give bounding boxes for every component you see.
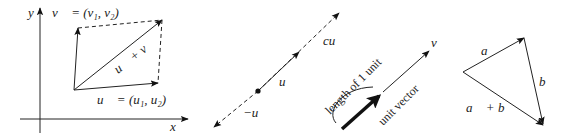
label-neg-u: −u⃗	[243, 105, 268, 120]
label-v: v⃗	[431, 35, 447, 50]
vector-v	[383, 51, 429, 92]
label-a: a⃗	[481, 43, 498, 58]
origin-point	[255, 88, 260, 93]
triangle-panel: a⃗ b⃗ a⃗ + b⃗	[463, 38, 556, 125]
vector-diagram: y x v⃗ = (v₁, v₂) u⃗ = (u₁, u₂) u⃗ + v⃗ …	[0, 0, 564, 140]
vector-sum	[74, 20, 162, 90]
dashed-edge-right	[158, 20, 162, 83]
vector-v	[74, 28, 78, 90]
label-u: u⃗ = (u₁, u₂)	[97, 92, 166, 107]
label-unit-vector: unit vector	[375, 82, 421, 128]
label-u: u⃗	[279, 74, 296, 89]
label-v: v⃗ = (v₁, v₂)	[52, 5, 119, 20]
dashed-edge-top	[78, 20, 162, 28]
label-b: b⃗	[539, 74, 556, 89]
unit-vector-panel: v⃗ length of 1 unit unit vector	[322, 35, 447, 129]
x-axis-label: x	[169, 119, 176, 134]
y-axis-label: y	[26, 5, 34, 20]
label-length: length of 1 unit	[322, 55, 384, 117]
label-cu: cu⃗	[323, 33, 345, 48]
label-sum: a⃗ + b⃗	[466, 100, 515, 115]
vector-sum	[463, 72, 543, 125]
vector-u	[74, 83, 158, 90]
parallelogram-panel: y x v⃗ = (v₁, v₂) u⃗ = (u₁, u₂) u⃗ + v⃗	[20, 5, 188, 134]
